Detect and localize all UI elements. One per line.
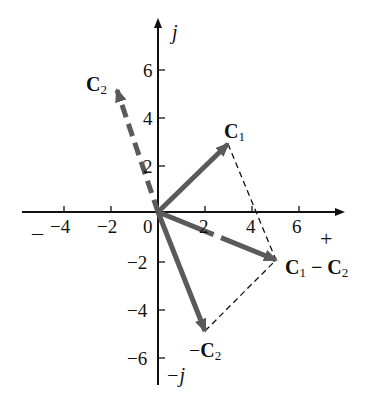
x-tick-label: −2 [97, 217, 117, 236]
y-tick-label: 4 [143, 109, 153, 128]
y-tick-label: 6 [143, 61, 153, 80]
diagram-canvas [0, 0, 369, 395]
x-tick-label: 4 [246, 217, 256, 236]
y-tick-label: 2 [143, 157, 153, 176]
x-negative-label: – [32, 222, 43, 244]
vector-c1-label: C1 [224, 121, 245, 143]
x-tick-label: 2 [199, 217, 209, 236]
vector-neg-c2-label: −C2 [189, 340, 221, 362]
y-negative-label: −j [166, 365, 185, 385]
x-positive-label: + [320, 228, 332, 250]
x-tick-label: −4 [50, 217, 70, 236]
vector-c1-minus-c2-label: C1 − C2 [285, 257, 348, 279]
y-tick-label: −2 [127, 253, 147, 272]
y-positive-label: j [172, 22, 178, 42]
y-tick-label: −4 [127, 301, 147, 320]
phasor-diagram: j −j + – −4 −2 0 2 4 6 6 4 2 −2 −4 −6 C1… [0, 0, 369, 395]
vector-c2-label: C2 [86, 74, 107, 96]
construction-line-negc2-to-diff [205, 260, 276, 331]
vector-c1 [158, 144, 228, 212]
y-tick-label: −6 [127, 349, 147, 368]
x-tick-label: 6 [292, 217, 302, 236]
x-tick-label: 0 [143, 217, 153, 236]
